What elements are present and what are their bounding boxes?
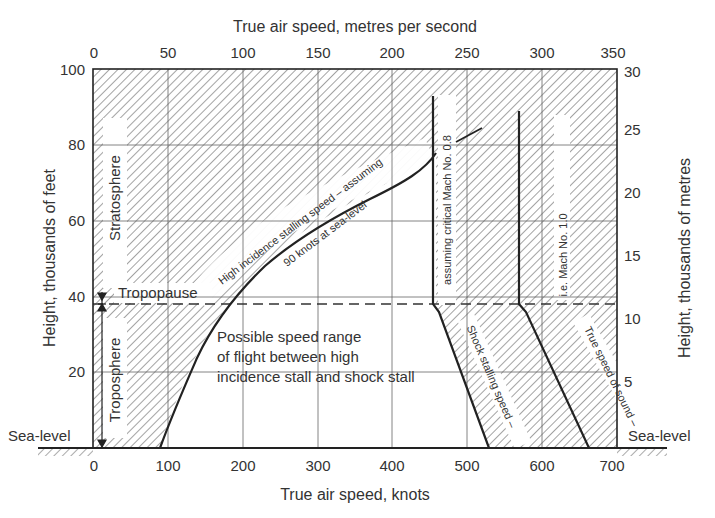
x-tick-400: 400 <box>379 457 404 474</box>
x2-tick-50: 50 <box>160 44 177 61</box>
troposphere-label: Troposphere <box>106 338 123 423</box>
x-tick-100: 100 <box>155 457 180 474</box>
y2-axis-title: Height, thousands of metres <box>676 158 693 358</box>
region-label-line3: incidence stall and shock stall <box>217 368 415 385</box>
y2-tick-30: 30 <box>624 63 641 80</box>
region-label-line1: Possible speed range <box>217 328 361 345</box>
x-tick-0: 0 <box>90 457 98 474</box>
stratosphere-label: Stratosphere <box>106 155 123 241</box>
y-axis-title: Height, thousands of feet <box>41 169 58 347</box>
mach10-label-upper: i.e. Mach No. 1.0 <box>557 213 569 296</box>
y-tick-100: 100 <box>60 61 85 78</box>
y2-tick-20: 20 <box>624 184 641 201</box>
mach08-label-upper: assuming critical Mach No. 0.8 <box>441 135 453 285</box>
region-label-line2: of flight between high <box>217 348 359 365</box>
tropopause-label: Tropopause <box>118 284 198 301</box>
x-tick-500: 500 <box>454 457 479 474</box>
y-tick-20: 20 <box>68 363 85 380</box>
x2-tick-250: 250 <box>454 44 479 61</box>
x2-axis-title: True air speed, metres per second <box>233 18 477 35</box>
y2-tick-25: 25 <box>624 121 641 138</box>
x2-tick-0: 0 <box>90 44 98 61</box>
x-axis-title: True air speed, knots <box>280 486 430 503</box>
x-tick-600: 600 <box>529 457 554 474</box>
x2-tick-100: 100 <box>230 44 255 61</box>
x2-tick-150: 150 <box>305 44 330 61</box>
sea-level-label-left: Sea-level <box>8 427 71 444</box>
sea-level-label-right: Sea-level <box>628 427 691 444</box>
y-tick-40: 40 <box>68 288 85 305</box>
x2-tick-200: 200 <box>379 44 404 61</box>
ground-hatch-left <box>38 449 93 456</box>
y-tick-60: 60 <box>68 212 85 229</box>
x-tick-700: 700 <box>599 457 624 474</box>
y2-tick-15: 15 <box>624 247 641 264</box>
flight-envelope-chart: 0 100 200 300 400 500 600 700 0 50 100 1… <box>0 0 715 518</box>
y2-tick-5: 5 <box>624 373 632 390</box>
ground-hatch-right <box>617 449 667 456</box>
x2-tick-350: 350 <box>600 44 625 61</box>
y2-tick-10: 10 <box>624 310 641 327</box>
x-tick-300: 300 <box>305 457 330 474</box>
x-tick-200: 200 <box>230 457 255 474</box>
y-tick-80: 80 <box>68 136 85 153</box>
x2-tick-300: 300 <box>529 44 554 61</box>
